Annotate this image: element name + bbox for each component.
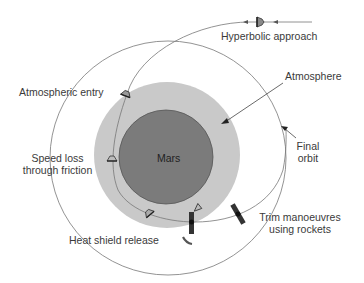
label-final-orbit-line2: orbit <box>293 152 323 164</box>
label-speed-loss-line2: through friction <box>20 164 95 176</box>
label-trim-line1: Trim manoeuvres <box>255 211 345 223</box>
label-speed-loss: Speed loss through friction <box>20 152 95 176</box>
label-final-orbit: Final orbit <box>293 140 323 164</box>
label-final-orbit-line1: Final <box>293 140 323 152</box>
label-hyperbolic-approach: Hyperbolic approach <box>221 30 317 42</box>
label-heat-shield-release: Heat shield release <box>69 234 159 246</box>
label-speed-loss-line1: Speed loss <box>20 152 95 164</box>
label-mars: Mars <box>157 152 180 164</box>
label-atmospheric-entry: Atmospheric entry <box>19 86 104 98</box>
label-trim-manoeuvres: Trim manoeuvres using rockets <box>255 211 345 235</box>
heat-shield-icon <box>183 237 192 244</box>
arrow-head-icon <box>243 20 248 24</box>
arrow-head-icon <box>273 20 278 24</box>
capsule-approach-icon <box>257 17 264 27</box>
orbiter-icon <box>189 212 194 234</box>
atmosphere-pointer <box>225 83 283 122</box>
orbiter-icon <box>230 203 245 225</box>
label-atmosphere: Atmosphere <box>285 70 342 82</box>
label-trim-line2: using rockets <box>255 223 345 235</box>
